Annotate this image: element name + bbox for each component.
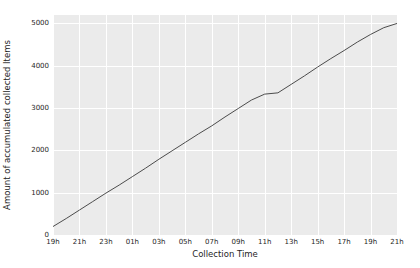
plot-area [53,15,397,235]
x-axis-label: Collection Time [53,249,397,259]
y-tick-label: 2000 [3,146,49,154]
y-tick-label: 1000 [3,189,49,197]
y-axis-tick-labels: 010002000300040005000 [0,15,49,235]
y-tick-label: 4000 [3,62,49,70]
x-tick-label: 21h [377,238,417,247]
series-line-accumulated-items [53,23,397,226]
y-tick-label: 3000 [3,104,49,112]
line-chart-figure: Amount of accumulated collected Items 01… [0,0,420,268]
y-tick-label: 5000 [3,19,49,27]
data-series-svg [53,15,397,235]
